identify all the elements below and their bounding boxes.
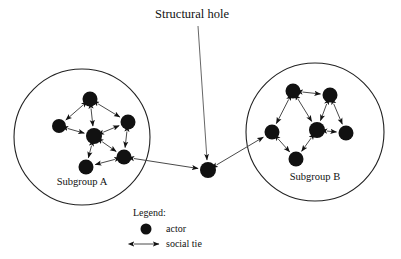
legend: Legend: actor social tie [133, 207, 202, 249]
structural-hole-label: Structural hole [155, 7, 229, 21]
structural-hole-node [200, 162, 216, 178]
social-tie-edge [103, 126, 119, 133]
bridging-tie-edge [217, 137, 264, 165]
structural-hole-annotation: Structural hole [155, 7, 229, 160]
social-tie-edge [91, 108, 93, 126]
social-tie-edge [302, 138, 312, 151]
social-tie-edge [68, 128, 85, 133]
actor-node [86, 128, 102, 144]
diagram-canvas: Structural hole Subgroup A Subgroup B Le… [0, 0, 401, 259]
social-tie-edge [327, 131, 337, 132]
structural-hole-diagram: Structural hole Subgroup A Subgroup B Le… [0, 0, 401, 259]
social-tie-edge [320, 104, 326, 121]
subgroup-a-label: Subgroup A [57, 176, 108, 187]
legend-social-tie-label: social tie [166, 238, 202, 249]
social-tie-edge [302, 92, 320, 94]
actor-node [83, 92, 98, 107]
annotation-leader-line [198, 26, 207, 160]
actor-node [79, 160, 94, 175]
social-tie-edge [298, 99, 312, 121]
legend-actor-icon [141, 224, 152, 235]
actor-node [265, 125, 280, 140]
social-tie-edge [102, 142, 116, 152]
bridge-actor-node [200, 162, 216, 178]
actor-node [121, 115, 136, 130]
legend-actor-label: actor [166, 223, 187, 234]
social-tie-edge [334, 104, 343, 124]
social-tie-edge [66, 105, 83, 120]
social-tie-edge [276, 99, 288, 123]
actor-node [52, 119, 66, 133]
actor-node [323, 88, 338, 103]
subgroup-b-nodes [265, 84, 354, 167]
actor-node [339, 126, 354, 141]
subgroup-a-nodes [52, 92, 136, 175]
legend-title: Legend: [133, 207, 166, 218]
social-tie-edge [98, 104, 120, 117]
bridge-edges [134, 137, 264, 168]
actor-node [309, 122, 325, 138]
social-tie-edge [95, 159, 115, 164]
social-tie-edge [125, 131, 127, 147]
social-tie-edge [278, 139, 289, 152]
subgroup-b-label: Subgroup B [290, 171, 340, 182]
actor-node [117, 150, 132, 165]
social-tie-edge [88, 146, 91, 158]
actor-node [289, 152, 304, 167]
actor-node [286, 84, 301, 99]
